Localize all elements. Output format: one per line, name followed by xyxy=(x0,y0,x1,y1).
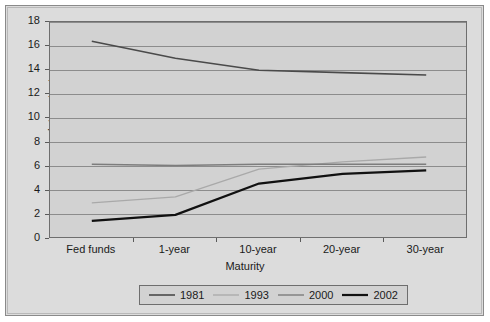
series-lines xyxy=(50,22,468,239)
legend-entry-2000: 2000 xyxy=(278,289,333,301)
legend-label: 2000 xyxy=(309,289,333,301)
x-axis-tick-label: Fed funds xyxy=(46,243,136,255)
y-axis-tick-label: 2 xyxy=(0,208,40,219)
y-axis-tick-label: 8 xyxy=(0,136,40,147)
legend-line-swatch xyxy=(213,291,239,299)
legend-line-swatch xyxy=(149,291,175,299)
series-line-2002 xyxy=(92,170,426,221)
y-axis-tick-label: 16 xyxy=(0,39,40,50)
legend-line-swatch xyxy=(342,291,368,299)
y-axis-tick-label: 6 xyxy=(0,160,40,171)
x-axis-title: Maturity xyxy=(0,260,490,272)
plot-area xyxy=(49,21,467,238)
y-axis-tick-label: 0 xyxy=(0,232,40,243)
x-axis-tick-label: 1-year xyxy=(129,243,219,255)
y-axis-tick-label: 10 xyxy=(0,111,40,122)
legend-entry-2002: 2002 xyxy=(342,289,397,301)
y-axis-tick-label: 14 xyxy=(0,63,40,74)
legend-entry-1993: 1993 xyxy=(213,289,268,301)
x-axis-tick-label: 20-year xyxy=(297,243,387,255)
chart-legend: 1981199320002002 xyxy=(139,285,408,305)
legend-label: 1981 xyxy=(180,289,204,301)
y-axis-tick-label: 18 xyxy=(0,15,40,26)
series-line-1981 xyxy=(92,41,426,75)
x-axis-tick-label: 30-year xyxy=(380,243,470,255)
legend-label: 2002 xyxy=(373,289,397,301)
x-axis-tick-label: 10-year xyxy=(213,243,303,255)
y-axis-tick-mark xyxy=(45,238,49,239)
legend-entry-1981: 1981 xyxy=(149,289,204,301)
y-axis-tick-label: 4 xyxy=(0,184,40,195)
chart-screenshot: Interest rate 024681012141618 Fed funds1… xyxy=(0,0,490,322)
legend-line-swatch xyxy=(278,291,304,299)
series-line-2000 xyxy=(92,164,426,165)
y-axis-tick-label: 12 xyxy=(0,87,40,98)
legend-label: 1993 xyxy=(244,289,268,301)
